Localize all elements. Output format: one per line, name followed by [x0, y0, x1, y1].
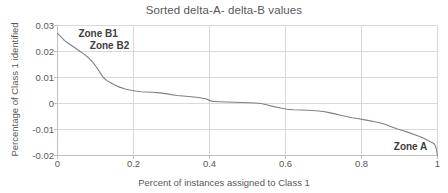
chart-container: Sorted delta-A- delta-B values Percentag… [0, 0, 448, 193]
axis-lines [58, 26, 438, 156]
plot-area [0, 0, 448, 193]
tick-marks [54, 26, 438, 160]
grid-lines [58, 26, 438, 156]
